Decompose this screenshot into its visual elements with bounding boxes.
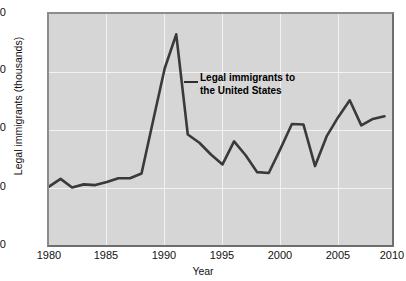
x-tick-label-2000: 2000: [257, 249, 303, 261]
x-axis-title: Year: [0, 265, 406, 277]
y-tick-label-1500: 1500: [0, 63, 6, 75]
annotation-line-2: the United States: [200, 85, 340, 98]
x-tick-label-2010: 2010: [369, 249, 406, 261]
x-tick-label-1980: 1980: [26, 249, 72, 261]
x-tick-label-2005: 2005: [315, 249, 361, 261]
plot-area: [47, 12, 394, 247]
y-tick-label-1000: 1000: [0, 121, 6, 133]
y-axis-title: Legal immigrants (thousands): [12, 16, 24, 196]
y-tick-label-2000: 2000: [0, 6, 6, 18]
y-tick-label-500: 500: [0, 180, 6, 192]
annotation-leader-line: [184, 81, 198, 83]
x-tick-label-1985: 1985: [83, 249, 129, 261]
data-series-line: [49, 14, 394, 247]
annotation-label: Legal immigrants to the United States: [200, 72, 340, 97]
x-tick-label-1995: 1995: [199, 249, 245, 261]
y-tick-label-0: 0: [0, 238, 6, 250]
annotation-line-1: Legal immigrants to: [200, 72, 340, 85]
immigrants-polyline: [49, 34, 384, 187]
x-tick-label-1990: 1990: [141, 249, 187, 261]
immigration-line-chart: Legal immigrants (thousands) 2000 1500 1…: [0, 0, 406, 281]
